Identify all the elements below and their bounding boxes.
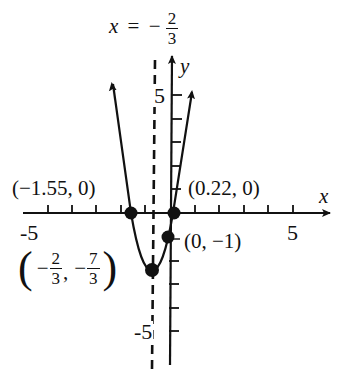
label-equals: = <box>128 14 140 38</box>
label-x-intercept-left: (−1.55, 0) <box>12 178 96 199</box>
x-axis-label: x <box>319 186 328 207</box>
label-x-intercept-right: (0.22, 0) <box>188 178 260 199</box>
close-paren: ) <box>103 246 118 290</box>
axis-of-symmetry-label: x = − 2 3 <box>109 10 178 47</box>
label-x: x <box>109 14 118 38</box>
open-paren: ( <box>18 246 33 290</box>
y-tick-label-5: 5 <box>153 85 166 107</box>
x-tick-label-neg5: -5 <box>20 222 38 244</box>
y-tick-label-neg5: -5 <box>133 321 153 343</box>
fraction: 2 3 <box>166 10 179 47</box>
point-x-intercept-left <box>125 207 138 220</box>
y-axis-label: y <box>180 56 189 77</box>
label-minus: − <box>149 14 161 38</box>
point-y-intercept <box>162 231 175 244</box>
x-tick-label-5: 5 <box>287 222 298 244</box>
point-vertex <box>145 263 159 277</box>
point-x-intercept-right <box>168 207 181 220</box>
label-vertex: ( − 2 3 , − 7 3 ) <box>18 246 117 290</box>
label-y-intercept: (0, −1) <box>184 231 241 252</box>
parabola-graph: x = − 2 3 y x -5 5 5 -5 (−1.55, 0) (0.22… <box>0 0 347 369</box>
